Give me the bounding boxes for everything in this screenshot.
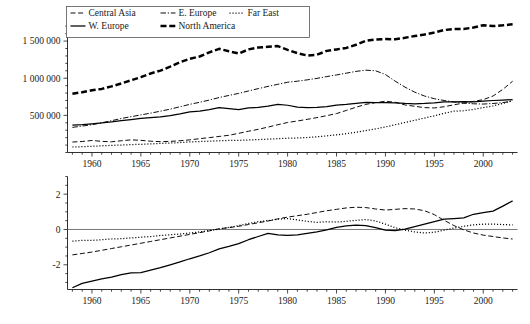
x-tick-label: 1960 [82,159,101,169]
top-chart-legend: Central AsiaE. EuropeFar EastW. EuropeNo… [67,7,310,38]
x-tick-label: 1965 [131,159,150,169]
figure-background [0,0,530,324]
x-tick-label: 2000 [474,296,493,306]
x-tick-label: 1980 [278,296,297,306]
y-tick-label: 1 500 000 [23,36,61,46]
x-tick-label: 1990 [376,296,395,306]
x-tick-label: 1965 [131,296,150,306]
y-tick-label: 1 000 000 [23,74,61,84]
x-tick-label: 1995 [425,296,444,306]
x-tick-label: 1995 [425,159,444,169]
y-tick-label: 0 [56,225,61,235]
x-tick-label: 1970 [180,296,199,306]
y-tick-label: -2 [53,260,61,270]
legend-entry-label: W. Europe [89,21,129,31]
legend-entry-label: E. Europe [179,8,217,18]
x-tick-label: 1985 [327,159,346,169]
bottom-x-tick-labels: 196019651970197519801985199019952000 [82,296,493,306]
x-tick-label: 1960 [82,296,101,306]
legend-entry-label: Far East [248,8,280,18]
x-tick-label: 1970 [180,159,199,169]
x-tick-label: 1975 [229,296,248,306]
top-x-tick-labels: 196019651970197519801985199019952000 [82,159,493,169]
y-tick-label: 500 000 [30,111,61,121]
x-tick-label: 1980 [278,159,297,169]
y-tick-label: 2 [56,190,61,200]
x-tick-label: 1990 [376,159,395,169]
legend-entry-label: North America [179,21,237,31]
figure-root: 500 0001 000 0001 500 000 19601965197019… [0,0,530,324]
x-tick-label: 1985 [327,296,346,306]
legend-entry-label: Central Asia [89,8,137,18]
x-tick-label: 2000 [474,159,493,169]
x-tick-label: 1975 [229,159,248,169]
